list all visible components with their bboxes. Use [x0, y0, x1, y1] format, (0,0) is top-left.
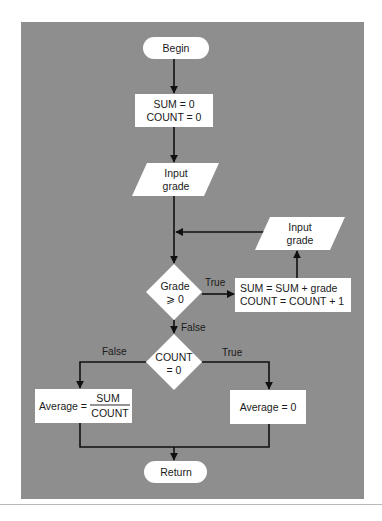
accumulate-line-1: SUM = SUM + grade — [240, 282, 338, 294]
input1-line-2: grade — [163, 180, 190, 192]
node-input-grade-loop: Input grade — [255, 217, 345, 250]
begin-label: Begin — [163, 42, 190, 54]
label-count-true: True — [222, 347, 243, 358]
input1-line-1: Input — [164, 167, 187, 179]
avg-compute-numerator: SUM — [96, 392, 119, 404]
page-divider — [0, 504, 382, 505]
node-begin: Begin — [143, 37, 209, 59]
node-average-compute: Average = SUM COUNT — [35, 389, 132, 423]
label-grade-true: True — [205, 277, 226, 288]
label-grade-false: False — [181, 322, 206, 333]
decision-grade-line-2: ⩾ 0 — [166, 293, 184, 305]
return-label: Return — [160, 466, 192, 478]
avg-compute-denominator: COUNT — [91, 407, 129, 419]
flowchart-figure: Begin SUM = 0 COUNT = 0 Input grade Inpu… — [0, 0, 382, 521]
node-init: SUM = 0 COUNT = 0 — [135, 94, 213, 127]
node-input-grade: Input grade — [132, 163, 219, 196]
input2-line-2: grade — [287, 234, 314, 246]
accumulate-line-2: COUNT = COUNT + 1 — [240, 295, 344, 307]
label-count-false: False — [102, 346, 127, 357]
node-accumulate: SUM = SUM + grade COUNT = COUNT + 1 — [235, 278, 351, 312]
node-average-zero: Average = 0 — [230, 390, 306, 424]
input2-line-1: Input — [288, 221, 311, 233]
avg-compute-prefix: Average = — [39, 400, 87, 412]
decision-count-line-2: = 0 — [167, 364, 182, 376]
decision-grade-line-1: Grade — [160, 280, 189, 292]
avg-zero-label: Average = 0 — [240, 401, 297, 413]
init-line-1: SUM = 0 — [153, 98, 194, 110]
decision-count-line-1: COUNT — [155, 351, 193, 363]
diagram-background — [21, 22, 364, 499]
node-return: Return — [144, 461, 207, 483]
init-line-2: COUNT = 0 — [147, 111, 202, 123]
